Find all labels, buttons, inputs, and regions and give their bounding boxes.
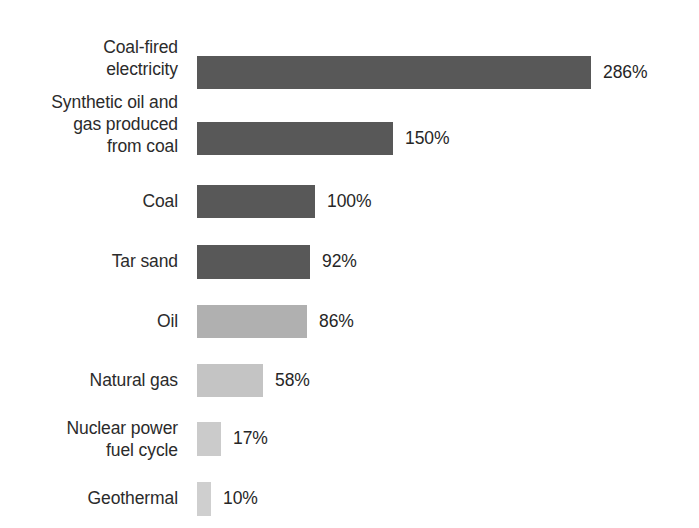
bar-value-label: 150% [405, 130, 449, 148]
bar-value-label: 286% [603, 64, 647, 82]
bar [197, 56, 591, 89]
bar [197, 364, 263, 397]
bar [197, 122, 393, 155]
bar [197, 185, 315, 218]
bar-category-label: Synthetic oil and gas produced from coal [0, 91, 178, 157]
bar-category-label: Coal-fired electricity [0, 36, 178, 80]
bar-category-label: Oil [0, 310, 178, 332]
bar [197, 482, 211, 516]
bar-value-label: 100% [327, 193, 371, 211]
bar-category-label: Geothermal [0, 487, 178, 509]
bar-value-label: 86% [319, 313, 354, 331]
bar-category-label: Nuclear power fuel cycle [0, 417, 178, 461]
bar-value-label: 10% [223, 490, 258, 508]
bar-chart: Coal-fired electricity286%Synthetic oil … [0, 0, 699, 528]
bar [197, 245, 310, 279]
bar-category-label: Tar sand [0, 250, 178, 272]
bar [197, 422, 221, 456]
bar-value-label: 17% [233, 430, 268, 448]
bar-category-label: Natural gas [0, 369, 178, 391]
bar [197, 305, 307, 338]
bar-value-label: 92% [322, 253, 357, 271]
bar-value-label: 58% [275, 372, 310, 390]
bar-category-label: Coal [0, 190, 178, 212]
